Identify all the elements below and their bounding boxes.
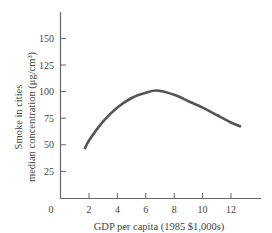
chart: 24681012255075100125150 0 GDP per capita… [0, 0, 272, 233]
data-line [85, 90, 241, 149]
y-tick-label: 125 [39, 60, 54, 71]
y-tick-label: 150 [39, 33, 54, 44]
y-axis-title-line-2: median concentration (μg/cm³) [26, 51, 38, 182]
x-tick-label: 10 [198, 204, 208, 215]
x-tick-label: 12 [226, 204, 236, 215]
x-tick-label: 8 [172, 204, 177, 215]
x-tick-label: 2 [87, 204, 92, 215]
y-axis-title-line-1: Smoke in cities [13, 85, 24, 150]
axes [60, 12, 261, 199]
y-tick-label: 50 [44, 139, 54, 150]
y-tick-label: 100 [39, 86, 54, 97]
x-axis-title: GDP per capita (1985 $1,000s) [94, 221, 225, 233]
y-tick-label: 25 [44, 166, 54, 177]
origin-label: 0 [49, 204, 54, 215]
x-tick-label: 6 [143, 204, 148, 215]
y-tick-label: 75 [44, 113, 54, 124]
ticks: 24681012255075100125150 [39, 33, 236, 215]
y-axis-title: Smoke in cities median concentration (μg… [13, 51, 38, 182]
x-tick-label: 4 [115, 204, 120, 215]
